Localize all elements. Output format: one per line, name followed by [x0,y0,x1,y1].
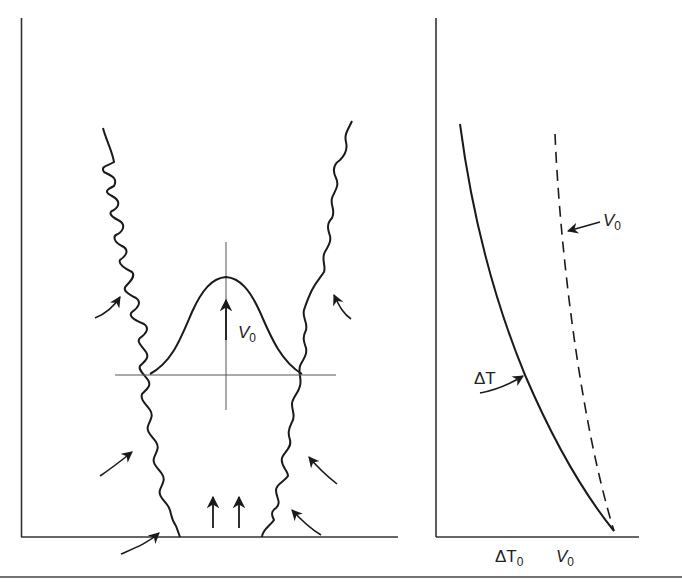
v0-pointer-arrow [568,222,600,231]
v0-curve-label: V0 [603,211,621,233]
x-tick-delta-t0: ΔT0 [495,547,524,569]
entrainment-arrow-right-upper [334,295,351,319]
plume-boundary-right [262,121,352,537]
delta-t-curve [460,124,614,531]
entrainment-arrow-left-lower [121,533,159,554]
entrainment-arrow-left-upper [95,297,120,318]
entrainment-arrow-right-lower [292,510,321,535]
right-panel: ΔT V0 ΔT0 V0 [436,18,639,569]
entrainment-arrow-left-middle [100,452,132,476]
plume-boundary-left [103,128,180,537]
entrainment-arrow-right-middle [309,457,337,484]
plume-diagram: V0 ΔT V0 ΔT0 [0,0,682,585]
delta-t-label: ΔT [474,369,496,388]
left-panel: V0 [21,18,398,554]
velocity-label: V0 [238,323,256,345]
v0-dashed-line [555,134,614,531]
x-tick-v0: V0 [556,547,574,569]
